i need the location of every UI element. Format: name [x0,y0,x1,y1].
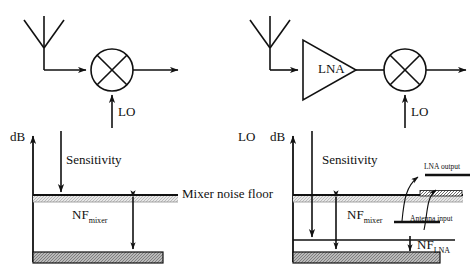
lna-label: LNA [318,62,345,75]
mixer-noise-floor-label: Mixer noise floor [182,187,273,200]
nf-mixer-sub-left: mixer [89,216,108,225]
nf-mixer-main-left: NF [72,207,89,222]
noise-band-right [293,196,463,202]
figure-root: LO dB Sensitivity Mixer noise floor NFmi… [0,0,475,276]
left-circuit [24,16,178,128]
lo-label-right: LO [411,105,428,118]
lna-output-label: LNA output [424,163,460,171]
sensitivity-label-right: Sensitivity [322,153,378,166]
nf-mixer-label-right: NFmixer [347,208,382,225]
nf-mixer-sub-right: mixer [364,216,383,225]
lo-side-label-right: LO [238,130,255,143]
thermal-floor-left [33,252,163,263]
noise-band-left [33,196,178,202]
nf-lna-main: NF [417,237,434,252]
mixer-symbol-left [91,49,133,91]
antenna-input-label: Antenna input [410,215,453,223]
y-axis-label-right: dB [270,130,285,143]
right-circuit [250,16,466,128]
lo-label-left: LO [118,105,135,118]
sensitivity-label-left: Sensitivity [66,153,122,166]
nf-lna-label: NFLNA [417,238,450,255]
y-axis-label-left: dB [10,130,25,143]
antenna-symbol-right [250,16,290,70]
mixer-symbol-right [384,49,426,91]
nf-lna-sub: LNA [434,246,451,255]
antenna-symbol-left [24,16,64,70]
amplified-noise-segment [420,191,462,197]
nf-mixer-label-left: NFmixer [72,208,107,225]
nf-mixer-main-right: NF [347,207,364,222]
left-graph [33,131,178,263]
